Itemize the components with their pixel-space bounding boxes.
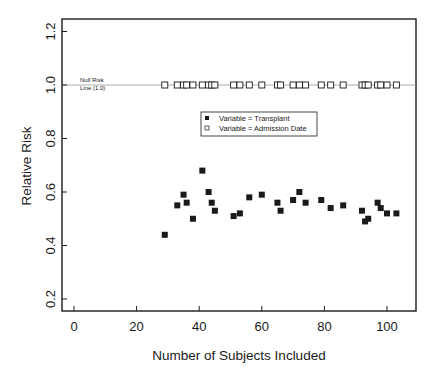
filled-square-marker bbox=[290, 197, 296, 203]
x-tick-label: 0 bbox=[70, 319, 77, 334]
y-tick-label: 0.2 bbox=[43, 290, 58, 308]
filled-square-marker bbox=[278, 208, 284, 214]
legend-filled-square-icon bbox=[205, 116, 209, 120]
legend-open-square-icon bbox=[205, 126, 209, 130]
filled-square-marker bbox=[162, 232, 168, 238]
x-tick-label: 40 bbox=[192, 319, 206, 334]
x-tick-label: 100 bbox=[376, 319, 398, 334]
open-square-marker bbox=[365, 82, 371, 88]
filled-square-marker bbox=[237, 210, 243, 216]
null-risk-label-line2: Line (1.0) bbox=[80, 85, 105, 91]
open-square-marker bbox=[174, 82, 180, 88]
x-axis-title: Number of Subjects Included bbox=[152, 348, 325, 363]
filled-square-marker bbox=[274, 200, 280, 206]
filled-square-marker bbox=[359, 208, 365, 214]
legend: Variable = Transplant Variable = Admissi… bbox=[201, 112, 317, 136]
filled-square-marker bbox=[190, 216, 196, 222]
open-square-marker bbox=[328, 82, 334, 88]
open-square-marker bbox=[184, 82, 190, 88]
filled-square-marker bbox=[231, 213, 237, 219]
open-square-marker bbox=[340, 82, 346, 88]
open-square-marker bbox=[190, 82, 196, 88]
y-tick-label: 0.8 bbox=[43, 129, 58, 147]
open-square-marker bbox=[303, 82, 309, 88]
filled-square-marker bbox=[296, 189, 302, 195]
open-square-marker bbox=[259, 82, 265, 88]
filled-square-marker bbox=[199, 168, 205, 174]
filled-square-marker bbox=[328, 205, 334, 211]
plot-frame bbox=[62, 19, 416, 311]
open-square-marker bbox=[212, 82, 218, 88]
filled-square-marker bbox=[174, 202, 180, 208]
y-tick-label: 0.6 bbox=[43, 183, 58, 201]
filled-square-marker bbox=[206, 189, 212, 195]
filled-square-marker bbox=[375, 200, 381, 206]
open-square-marker bbox=[290, 82, 296, 88]
legend-label-admission-date: Variable = Admission Date bbox=[219, 124, 307, 133]
filled-square-marker bbox=[340, 202, 346, 208]
y-axis-title: Relative Risk bbox=[19, 126, 34, 205]
x-tick-label: 60 bbox=[255, 319, 269, 334]
filled-square-marker bbox=[303, 200, 309, 206]
open-square-marker bbox=[393, 82, 399, 88]
open-square-marker bbox=[237, 82, 243, 88]
open-square-marker bbox=[199, 82, 205, 88]
filled-square-marker bbox=[212, 208, 218, 214]
filled-square-marker bbox=[181, 192, 187, 198]
open-square-marker bbox=[278, 82, 284, 88]
open-square-marker bbox=[231, 82, 237, 88]
filled-square-marker bbox=[378, 205, 384, 211]
scatter-chart: 0.20.40.60.81.01.2 020406080100 Null Ris… bbox=[0, 0, 433, 379]
x-tick-label: 20 bbox=[129, 319, 143, 334]
y-axis: 0.20.40.60.81.01.2 bbox=[43, 22, 67, 308]
filled-square-marker bbox=[209, 200, 215, 206]
open-square-marker bbox=[162, 82, 168, 88]
open-square-marker bbox=[384, 82, 390, 88]
filled-square-marker bbox=[259, 192, 265, 198]
filled-square-marker bbox=[318, 197, 324, 203]
y-tick-label: 1.2 bbox=[43, 22, 58, 40]
filled-square-marker bbox=[246, 194, 252, 200]
open-square-marker bbox=[318, 82, 324, 88]
filled-square-marker bbox=[365, 216, 371, 222]
y-tick-label: 0.4 bbox=[43, 236, 58, 254]
y-tick-label: 1.0 bbox=[43, 76, 58, 94]
open-square-marker bbox=[296, 82, 302, 88]
x-axis: 020406080100 bbox=[70, 306, 397, 334]
series-transplant bbox=[162, 168, 400, 238]
open-square-marker bbox=[378, 82, 384, 88]
x-tick-label: 80 bbox=[317, 319, 331, 334]
filled-square-marker bbox=[384, 210, 390, 216]
filled-square-marker bbox=[393, 210, 399, 216]
null-risk-label-line1: Null Risk bbox=[80, 77, 105, 83]
filled-square-marker bbox=[184, 200, 190, 206]
legend-label-transplant: Variable = Transplant bbox=[219, 114, 290, 123]
open-square-marker bbox=[246, 82, 252, 88]
